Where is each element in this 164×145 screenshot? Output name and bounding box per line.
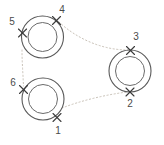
bottom-left-annulus-inner-circle: [29, 85, 58, 114]
marker-group: [19, 17, 135, 122]
top-left-annulus-inner-circle: [28, 23, 57, 52]
marker-label-4: 4: [59, 4, 65, 15]
marker-label-2: 2: [127, 98, 133, 109]
right-annulus-inner-circle: [116, 57, 145, 86]
annuli-marker-diagram: 123456: [0, 0, 164, 145]
connector-marker4-to-marker3: [59, 22, 128, 50]
connector-marker1-to-marker2: [62, 92, 127, 108]
bottom-left-annulus: [22, 78, 64, 120]
marker-label-1: 1: [55, 125, 61, 136]
cross-marker-4-icon: [53, 17, 61, 25]
right-annulus: [109, 50, 151, 92]
connector-group: [22, 22, 128, 108]
marker-label-group: 123456: [9, 4, 139, 136]
top-left-annulus: [22, 16, 64, 58]
diagram-canvas: 123456: [0, 0, 164, 145]
marker-label-3: 3: [133, 31, 139, 42]
connector-marker5-to-marker6: [22, 50, 24, 86]
marker-label-6: 6: [10, 77, 16, 88]
marker-label-5: 5: [9, 16, 15, 27]
